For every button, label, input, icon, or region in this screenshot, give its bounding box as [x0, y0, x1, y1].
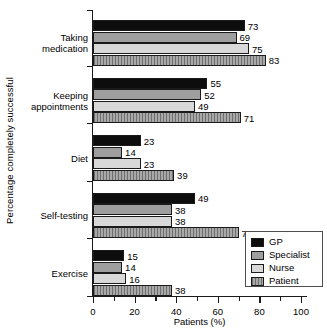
category-label: Keepingappointments — [14, 90, 88, 112]
x-axis-line — [92, 296, 307, 297]
bar-value-label: 16 — [129, 274, 140, 285]
category-label-line: Diet — [14, 153, 88, 164]
bar-value-label: 69 — [240, 32, 251, 43]
x-axis-tick-minor — [280, 297, 281, 301]
legend-swatch-gp-icon — [251, 238, 264, 247]
bar-value-label: 15 — [127, 251, 138, 262]
category-label-line: Exercise — [14, 268, 88, 279]
bar-patient — [93, 227, 239, 238]
legend-label-specialist: Specialist — [269, 250, 310, 260]
bar-value-label: 83 — [269, 55, 280, 66]
bar-value-label: 23 — [144, 136, 155, 147]
y-axis-tick — [87, 123, 92, 124]
bar-nurse — [93, 216, 172, 227]
x-axis-tick-minor — [155, 297, 156, 301]
bar-nurse — [93, 101, 195, 112]
bar-gp — [93, 20, 245, 31]
bar-value-label: 49 — [198, 101, 209, 112]
bar-value-label: 23 — [144, 159, 155, 170]
category-label-line: Taking — [14, 32, 88, 43]
legend: GP Specialist Nurse Patient — [245, 231, 323, 287]
bar-value-label: 14 — [125, 147, 136, 158]
y-axis-tick — [87, 10, 92, 11]
bar-patient — [93, 285, 172, 296]
legend-label-gp: GP — [269, 237, 283, 247]
category-axis-labels: TakingmedicationKeepingappointmentsDietS… — [16, 10, 90, 296]
x-axis-tick-minor — [239, 297, 240, 301]
y-axis-tick — [87, 66, 92, 67]
legend-swatch-nurse-icon — [251, 264, 264, 273]
bar-nurse — [93, 273, 126, 284]
bar-specialist — [93, 204, 172, 215]
bar-nurse — [93, 158, 141, 169]
category-label-line: appointments — [14, 101, 88, 112]
bar-value-label: 49 — [198, 193, 209, 204]
bar-value-label: 38 — [175, 285, 186, 296]
bar-gp — [93, 250, 124, 261]
y-axis-tick — [87, 238, 92, 239]
bar-specialist — [93, 32, 237, 43]
bar-value-label: 73 — [248, 21, 259, 32]
bar-gp — [93, 193, 195, 204]
bar-value-label: 14 — [125, 262, 136, 273]
bar-specialist — [93, 89, 201, 100]
legend-item-gp[interactable]: GP — [251, 236, 318, 248]
legend-item-nurse[interactable]: Nurse — [251, 262, 318, 274]
bar-value-label: 38 — [175, 216, 186, 227]
x-axis-tick-major — [135, 297, 136, 303]
bar-gp — [93, 78, 207, 89]
x-axis-tick-major — [259, 297, 260, 303]
category-label: Diet — [14, 153, 88, 164]
x-axis-tick-major — [176, 297, 177, 303]
x-axis-title: Patients (%) — [92, 316, 307, 327]
legend-item-patient[interactable]: Patient — [251, 275, 318, 287]
bar-specialist — [93, 147, 122, 158]
y-axis-tick — [87, 296, 92, 297]
bar-value-label: 38 — [175, 205, 186, 216]
category-label: Exercise — [14, 268, 88, 279]
legend-swatch-patient-icon — [251, 277, 264, 286]
x-axis-tick-major — [301, 297, 302, 303]
bar-patient — [93, 170, 174, 181]
bar-chart: Percentage completely successful Takingm… — [0, 0, 327, 336]
category-label-line: Keeping — [14, 90, 88, 101]
category-label-line: Self-testing — [14, 210, 88, 221]
x-axis-tick-major — [218, 297, 219, 303]
bar-value-label: 55 — [210, 78, 221, 89]
bar-value-label: 39 — [177, 170, 188, 181]
x-axis-tick-minor — [197, 297, 198, 301]
bar-value-label: 75 — [252, 44, 263, 55]
category-label: Takingmedication — [14, 32, 88, 54]
bar-specialist — [93, 262, 122, 273]
y-axis-tick — [87, 181, 92, 182]
bar-patient — [93, 55, 266, 66]
category-label-line: medication — [14, 43, 88, 54]
x-axis-tick-minor — [114, 297, 115, 301]
legend-swatch-specialist-icon — [251, 251, 264, 260]
legend-label-patient: Patient — [269, 276, 299, 286]
bar-gp — [93, 135, 141, 146]
bar-value-label: 52 — [204, 90, 215, 101]
legend-label-nurse: Nurse — [269, 263, 294, 273]
x-axis-tick-major — [93, 297, 94, 303]
bar-nurse — [93, 43, 249, 54]
legend-item-specialist[interactable]: Specialist — [251, 249, 318, 261]
bar-value-label: 71 — [244, 113, 255, 124]
category-label: Self-testing — [14, 210, 88, 221]
y-axis-title-text: Percentage completely successful — [4, 77, 15, 224]
bar-patient — [93, 112, 241, 123]
